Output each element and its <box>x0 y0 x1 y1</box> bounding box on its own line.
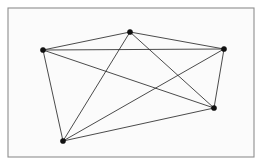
graph-vertex-top <box>127 29 132 34</box>
graph-vertex-bottom-left <box>60 138 65 143</box>
graph-vertex-top-left <box>40 47 45 52</box>
graph-vertex-top-right <box>221 46 226 51</box>
graph-canvas <box>0 0 263 166</box>
graph-vertex-bottom-right <box>211 105 216 110</box>
graph-figure-container <box>0 0 263 166</box>
